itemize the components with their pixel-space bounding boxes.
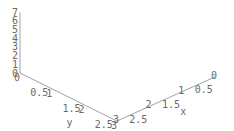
x-tick-label: 0.5 <box>195 84 213 95</box>
x-axis-title: x <box>180 106 186 117</box>
x-tick-label: 1 <box>178 85 184 96</box>
x-tick-label: 3 <box>113 114 119 125</box>
x-tick-label: 0 <box>211 70 217 81</box>
y-axis-title: y <box>67 117 73 128</box>
x-tick-label: 2.5 <box>129 114 147 125</box>
y-tick-label: 2 <box>79 104 85 115</box>
y-tick-label: 0 <box>14 72 20 83</box>
surface-plot: 0123456700.511.522.5300.511.522.53yx <box>0 0 234 131</box>
surface-mesh <box>20 28 215 113</box>
z-tick-label: 7 <box>12 7 18 18</box>
y-tick-label: 1 <box>46 88 52 99</box>
x-tick-label: 2 <box>146 99 152 110</box>
x-tick-label: 1.5 <box>162 99 180 110</box>
